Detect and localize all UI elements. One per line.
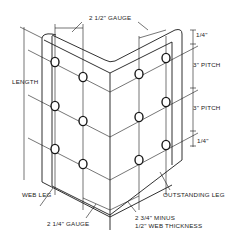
bolt-hole-icon (135, 155, 143, 164)
top-edge-distance-label: 1/4" (196, 31, 208, 38)
bolt-hole-icon (162, 97, 170, 106)
top-gauge-label: 2 1/2" GAUGE (89, 14, 131, 21)
bolt-holes-web-leg (51, 57, 87, 168)
bottom-edge-distance-label: 1/4" (197, 137, 209, 144)
bolt-hole-icon (79, 159, 87, 168)
bolt-hole-icon (135, 69, 143, 78)
pitch-label-2: 3" PITCH (193, 104, 221, 111)
bracket-outline (42, 30, 182, 231)
outstanding-gauge-label-line1: 2 3/4" MINUS (135, 214, 175, 221)
bolt-hole-icon (162, 140, 170, 149)
outstanding-gauge-label-line2: 1/2" WEB THICKNESS (135, 222, 202, 229)
bolt-hole-icon (79, 72, 87, 81)
bolt-hole-icon (51, 144, 59, 153)
bolt-hole-icon (51, 101, 59, 110)
pitch-label-1: 3" PITCH (193, 61, 221, 68)
length-label: LENGTH (12, 78, 38, 85)
bolt-hole-icon (51, 57, 59, 66)
dimension-lines (20, 22, 196, 218)
bolt-hole-icon (79, 116, 87, 125)
outstanding-leg-label: OUTSTANDING LEG (163, 191, 225, 198)
bolt-hole-icon (162, 53, 170, 62)
gauge-lines (55, 24, 166, 210)
bolt-hole-icon (135, 112, 143, 121)
web-leg-label: WEB LEG (22, 191, 52, 198)
bottom-gauge-label: 2 1/4" GAUGE (47, 220, 89, 227)
